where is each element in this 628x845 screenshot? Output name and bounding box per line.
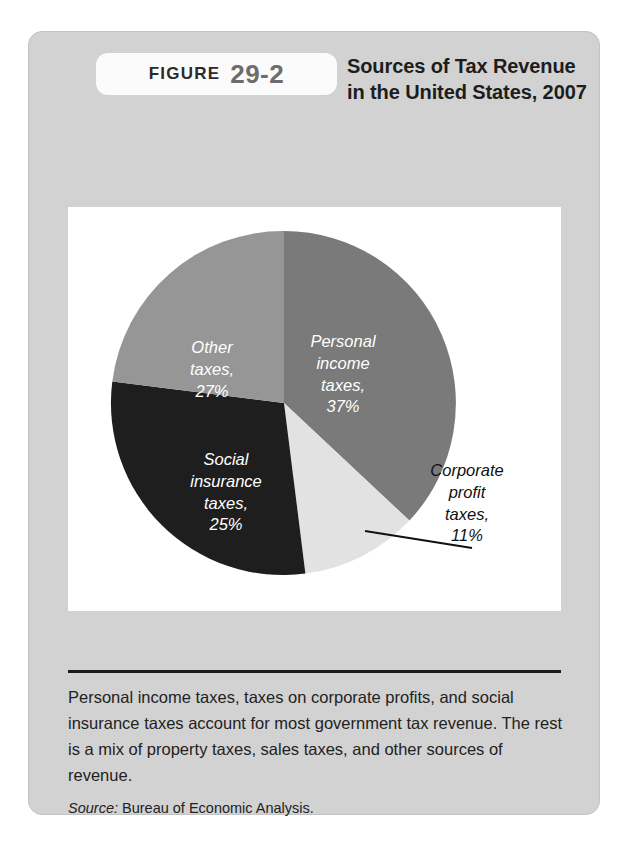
figure-number: 29-2: [230, 59, 284, 90]
pie-label-other-taxes: Other taxes, 27%: [164, 337, 260, 402]
figure-card: FIGURE 29-2 Sources of Tax Revenue in th…: [28, 31, 600, 815]
pie-label-personal-income: Personal income taxes, 37%: [290, 331, 396, 418]
pie-label-corporate-profit: Corporate profit taxes, 11%: [404, 460, 530, 547]
pie-label-social-insurance: Social insurance taxes, 25%: [168, 449, 284, 536]
caption-divider: [68, 670, 561, 673]
figure-title: Sources of Tax Revenue in the United Sta…: [347, 54, 587, 105]
chart-panel: Other taxes, 27% Personal income taxes, …: [68, 207, 561, 611]
source-text: Bureau of Economic Analysis.: [122, 800, 314, 816]
figure-header: FIGURE 29-2 Sources of Tax Revenue in th…: [29, 32, 601, 192]
pie-chart: Other taxes, 27% Personal income taxes, …: [68, 207, 561, 611]
source-label: Source:: [68, 800, 118, 816]
figure-label: FIGURE: [149, 64, 220, 84]
figure-caption: Personal income taxes, taxes on corporat…: [68, 684, 568, 788]
figure-number-tab: FIGURE 29-2: [96, 53, 337, 95]
figure-source: Source: Bureau of Economic Analysis.: [68, 800, 568, 816]
